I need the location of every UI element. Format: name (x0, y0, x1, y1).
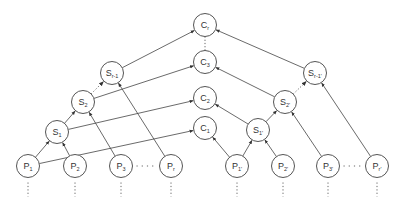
node-Sr-1p: Sr-1' (304, 62, 327, 85)
edge-S2p-to-C3 (216, 67, 275, 96)
edge-Prp-to-Sr-1p (322, 83, 371, 156)
node-P1: P1 (17, 155, 40, 178)
edge-P3-to-S2 (89, 112, 115, 156)
node-P3p: P3' (317, 155, 340, 178)
edge-P2p-to-S1p (265, 140, 277, 157)
node-S2: S2 (72, 91, 95, 114)
edge-Sr-1-to-Cr (122, 31, 194, 68)
node-P3: P3 (110, 155, 133, 178)
node-S1p: S1' (247, 119, 270, 142)
edge-S2-to-Sr-1 (91, 81, 103, 93)
edge-P1p-to-C1 (213, 137, 230, 157)
edge-S1p-to-C2 (215, 104, 248, 124)
edge-Sr-1p-to-Cr (216, 30, 304, 69)
edge-S1-to-S2 (65, 111, 76, 123)
node-S2p: S2' (274, 91, 297, 114)
node-Pr: Pr (160, 155, 183, 178)
node-Sr-1: Sr-1 (101, 62, 124, 85)
node-S1: S1 (46, 121, 69, 144)
edge-P1-to-S1 (35, 141, 49, 157)
nodes-layer: CrC3C2C1S1S2Sr-1S1'S2'Sr-1'P1P2P3PrP1'P2… (17, 14, 389, 178)
node-P2: P2 (64, 155, 87, 178)
node-C3: C3 (194, 51, 217, 74)
edge-S2p-to-Sr-1p (293, 81, 306, 94)
merge-tree-diagram: CrC3C2C1S1S2Sr-1S1'S2'Sr-1'P1P2P3PrP1'P2… (0, 0, 404, 207)
edge-P3p-to-S2p (292, 112, 322, 156)
node-Prp: Pr' (366, 155, 389, 178)
node-C1: C1 (194, 117, 217, 140)
node-P1p: P1' (226, 155, 249, 178)
edge-P2-to-S1 (63, 143, 70, 156)
edge-P1p-to-S1p (243, 140, 252, 156)
node-C2: C2 (194, 87, 217, 110)
node-Cr: Cr (194, 14, 217, 37)
node-P2p: P2' (272, 155, 295, 178)
edge-S1p-to-S2p (266, 111, 277, 122)
